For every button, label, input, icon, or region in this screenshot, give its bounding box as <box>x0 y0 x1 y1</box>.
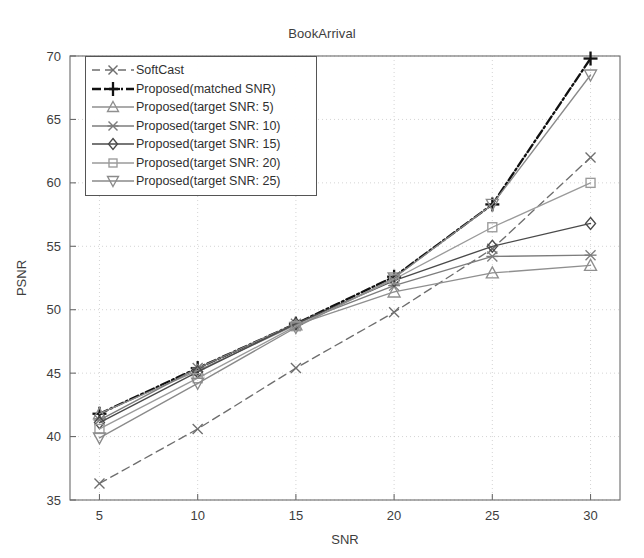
legend-marker-icon <box>90 98 136 116</box>
chart-legend: SoftCastProposed(matched SNR)Proposed(ta… <box>85 56 317 196</box>
x-axis-label: SNR <box>331 532 358 547</box>
legend-label: SoftCast <box>136 61 184 79</box>
legend-entry-4: Proposed(target SNR: 15) <box>90 135 311 154</box>
legend-marker-icon <box>90 61 136 79</box>
legend-label: Proposed(target SNR: 20) <box>136 154 281 172</box>
x-tick-label: 30 <box>583 508 597 523</box>
legend-marker-icon <box>90 117 136 135</box>
x-tick-label: 15 <box>289 508 303 523</box>
x-tick-label: 20 <box>387 508 401 523</box>
y-tick-label: 50 <box>47 302 61 317</box>
y-tick-label: 35 <box>47 493 61 508</box>
legend-marker-icon <box>90 135 136 153</box>
series-5 <box>95 178 595 433</box>
legend-label: Proposed(target SNR: 5) <box>136 98 274 116</box>
legend-entry-2: Proposed(target SNR: 5) <box>90 98 311 117</box>
series-2 <box>93 259 596 418</box>
series-0 <box>94 152 595 488</box>
y-tick-label: 40 <box>47 429 61 444</box>
legend-entry-5: Proposed(target SNR: 20) <box>90 154 311 173</box>
y-tick-label: 60 <box>47 175 61 190</box>
legend-label: Proposed(target SNR: 15) <box>136 135 281 153</box>
x-tick-label: 25 <box>485 508 499 523</box>
x-tick-label: 10 <box>190 508 204 523</box>
legend-label: Proposed(target SNR: 25) <box>136 172 281 190</box>
legend-marker-icon <box>90 154 136 172</box>
y-axis-label: PSNR <box>14 260 29 296</box>
chart-figure: BookArrival 354045505560657051015202530S… <box>0 0 644 558</box>
y-tick-label: 55 <box>47 239 61 254</box>
legend-label: Proposed(matched SNR) <box>136 80 276 98</box>
legend-marker-icon <box>90 80 136 98</box>
legend-marker-icon <box>90 172 136 190</box>
y-tick-label: 70 <box>47 49 61 64</box>
x-tick-label: 5 <box>96 508 103 523</box>
y-tick-label: 45 <box>47 366 61 381</box>
legend-entry-0: SoftCast <box>90 61 311 80</box>
series-4 <box>94 217 595 428</box>
legend-entry-6: Proposed(target SNR: 25) <box>90 172 311 191</box>
legend-label: Proposed(target SNR: 10) <box>136 117 281 135</box>
legend-entry-1: Proposed(matched SNR) <box>90 80 311 99</box>
legend-entry-3: Proposed(target SNR: 10) <box>90 117 311 136</box>
y-tick-label: 65 <box>47 112 61 127</box>
